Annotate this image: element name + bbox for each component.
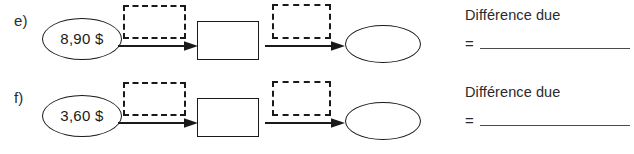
start-amount-oval-e: 8,90 $ bbox=[42, 18, 122, 60]
answer-block-e: Différence due = bbox=[465, 6, 630, 24]
arrow-right-icon bbox=[265, 117, 345, 129]
item-label-e: e) bbox=[14, 12, 28, 30]
arrow-right-icon bbox=[118, 117, 198, 129]
exercise-row-e: e) 8,90 $ Différence due = bbox=[0, 0, 634, 77]
start-amount-value-e: 8,90 $ bbox=[60, 31, 104, 47]
arrow-right-icon bbox=[118, 40, 198, 52]
equals-sign-e: = bbox=[465, 37, 474, 51]
operation-box-2-e[interactable] bbox=[272, 4, 331, 39]
result-oval-e[interactable] bbox=[345, 25, 421, 63]
result-oval-f[interactable] bbox=[345, 102, 421, 140]
start-amount-oval-f: 3,60 $ bbox=[42, 95, 122, 137]
item-label-f: f) bbox=[14, 89, 24, 107]
exercise-row-f: f) 3,60 $ Différence due = bbox=[0, 77, 634, 154]
operation-box-1-f[interactable] bbox=[123, 82, 186, 116]
answer-line-e[interactable] bbox=[480, 48, 630, 49]
answer-caption-e: Différence due bbox=[465, 6, 630, 24]
equals-sign-f: = bbox=[465, 114, 474, 128]
answer-block-f: Différence due = bbox=[465, 83, 630, 101]
operation-box-2-f[interactable] bbox=[272, 81, 331, 116]
answer-line-f[interactable] bbox=[480, 125, 630, 126]
intermediate-value-box-e[interactable] bbox=[197, 21, 259, 60]
answer-equation-e: = bbox=[465, 37, 630, 51]
worksheet-canvas: e) 8,90 $ Différence due = bbox=[0, 0, 634, 154]
answer-equation-f: = bbox=[465, 114, 630, 128]
start-amount-value-f: 3,60 $ bbox=[60, 108, 104, 124]
operation-box-1-e[interactable] bbox=[123, 5, 186, 39]
arrow-right-icon bbox=[265, 40, 345, 52]
answer-caption-f: Différence due bbox=[465, 83, 630, 101]
intermediate-value-box-f[interactable] bbox=[197, 98, 259, 137]
